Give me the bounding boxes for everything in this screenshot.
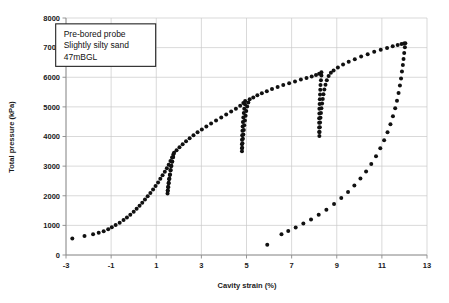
data-point: [379, 48, 383, 52]
data-point: [318, 121, 322, 125]
data-point: [318, 125, 322, 129]
data-point: [255, 93, 259, 97]
data-point: [166, 188, 170, 192]
data-point: [299, 78, 303, 82]
data-point: [148, 191, 152, 195]
data-point: [287, 81, 291, 85]
data-point: [378, 146, 382, 150]
x-tick-label: 3: [199, 261, 203, 270]
data-point: [243, 119, 247, 123]
data-point: [319, 78, 323, 82]
data-point: [110, 225, 114, 229]
data-point: [177, 145, 181, 149]
data-point: [399, 76, 403, 80]
data-point: [403, 41, 407, 45]
data-point: [138, 204, 142, 208]
data-point: [118, 221, 122, 225]
annotation-layer: Pre-bored probeSlightly silty sand47mBGL: [56, 24, 156, 67]
data-point: [391, 114, 395, 118]
data-point: [305, 76, 309, 80]
data-point: [241, 137, 245, 141]
data-point: [318, 92, 322, 96]
data-point: [170, 159, 174, 163]
data-point: [135, 207, 139, 211]
data-point: [245, 105, 249, 109]
data-point: [244, 109, 248, 113]
y-tick-label: 3000: [43, 162, 60, 171]
annotation-line: Slightly silty sand: [64, 40, 129, 50]
data-point: [140, 201, 144, 205]
data-point: [209, 121, 213, 125]
y-tick-label: 4000: [43, 132, 60, 141]
data-point: [125, 215, 129, 219]
data-point: [97, 231, 101, 235]
data-point: [184, 139, 188, 143]
data-point: [317, 213, 321, 217]
x-tick-label: 7: [290, 261, 294, 270]
data-point: [146, 194, 150, 198]
data-point: [388, 122, 392, 126]
data-point: [181, 142, 185, 146]
data-point: [293, 79, 297, 83]
data-point: [323, 83, 327, 87]
x-tick-label: 9: [335, 261, 339, 270]
data-point: [167, 181, 171, 185]
data-point: [191, 133, 195, 137]
data-point: [398, 84, 402, 88]
data-point: [106, 227, 110, 231]
data-point: [318, 130, 322, 134]
data-point: [276, 85, 280, 89]
data-point: [347, 60, 351, 64]
data-point: [171, 155, 175, 159]
data-point: [310, 75, 314, 79]
data-point: [260, 91, 264, 95]
x-tick-label: 11: [378, 261, 386, 270]
data-point: [175, 148, 179, 152]
data-point: [319, 111, 323, 115]
y-tick-label: 5000: [43, 103, 60, 112]
y-tick-label: 1000: [43, 221, 60, 230]
data-point: [397, 91, 401, 95]
data-point: [346, 190, 350, 194]
data-point: [156, 180, 160, 184]
data-point: [240, 146, 244, 150]
x-tick-label: 5: [244, 261, 248, 270]
data-point: [353, 57, 357, 61]
data-point: [385, 46, 389, 50]
data-point: [317, 134, 321, 138]
data-point: [402, 51, 406, 55]
data-point: [196, 130, 200, 134]
data-point: [321, 97, 325, 101]
data-point: [281, 83, 285, 87]
data-point: [352, 183, 356, 187]
data-point: [372, 50, 376, 54]
data-point: [403, 45, 407, 49]
data-point: [341, 63, 345, 67]
data-point: [318, 88, 322, 92]
data-point: [382, 138, 386, 142]
y-tick-label: 6000: [43, 73, 60, 82]
data-point: [166, 185, 170, 189]
data-point: [169, 168, 173, 172]
data-point: [188, 136, 192, 140]
data-point: [265, 89, 269, 93]
data-point: [161, 173, 165, 177]
data-point: [395, 99, 399, 103]
data-point: [386, 130, 390, 134]
data-point: [332, 68, 336, 72]
data-point: [396, 43, 400, 47]
annotation-line: 47mBGL: [64, 52, 98, 62]
data-point: [83, 234, 87, 238]
data-point: [321, 92, 325, 96]
x-tick-label: 13: [423, 261, 431, 270]
data-point: [319, 73, 323, 77]
y-tick-label: 8000: [43, 14, 60, 23]
data-point: [248, 97, 252, 101]
data-point: [322, 87, 326, 91]
data-point: [391, 44, 395, 48]
y-tick-label: 2000: [43, 192, 60, 201]
data-point: [251, 95, 255, 99]
data-point: [336, 65, 340, 69]
data-point: [366, 52, 370, 56]
x-tick-label: 1: [154, 261, 158, 270]
